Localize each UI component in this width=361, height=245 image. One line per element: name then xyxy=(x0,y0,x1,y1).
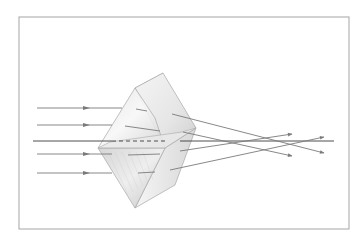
diagram-canvas xyxy=(0,0,361,245)
double-prism-diagram xyxy=(0,0,361,245)
